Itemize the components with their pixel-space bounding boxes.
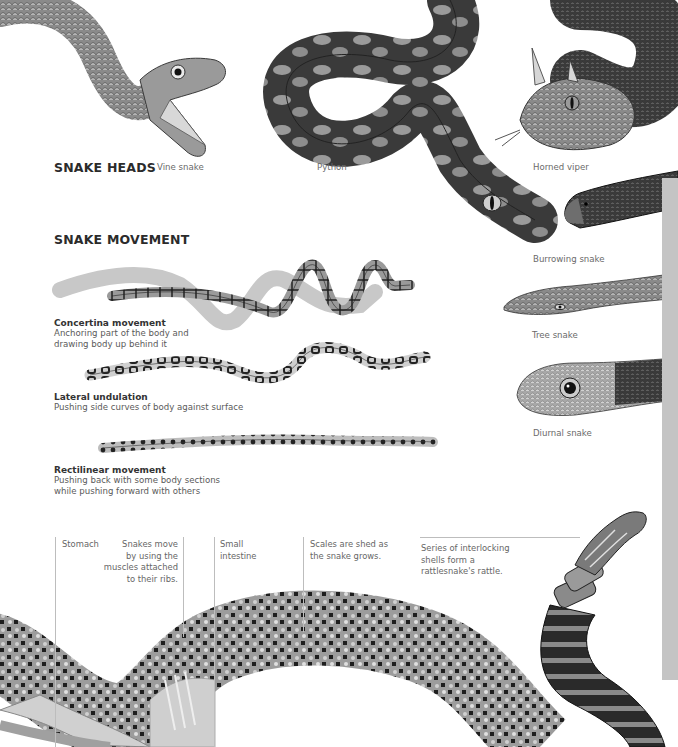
caption-burrowing-snake: Burrowing snake [533,254,605,264]
movement-description: Pushing side curves of body against surf… [54,402,243,413]
movement-title: Lateral undulation [54,392,243,402]
page-edge-tab [662,178,678,680]
movement-title: Concertina movement [54,318,189,328]
movement-lateral-undulation: Lateral undulation Pushing side curves o… [54,392,243,413]
annotation-line: muscles attached [100,562,178,574]
caption-tree-snake: Tree snake [532,330,578,340]
snake-movement-title: SNAKE MOVEMENT [54,232,189,247]
rattlesnake-anatomy-illustration [0,620,560,747]
leader-line-ribs [183,537,184,637]
annotation-line: intestine [220,551,257,563]
annotation-line: rattlesnake's rattle. [421,566,510,578]
movement-concertina: Concertina movement Anchoring part of th… [54,318,189,350]
leader-line-rattle [420,537,580,538]
movement-description: Anchoring part of the body and [54,328,189,339]
burrowing-snake-illustration [560,168,678,240]
annotation-line: Series of interlocking [421,543,510,555]
annotation-ribs: Snakes move by using the muscles attache… [100,539,178,585]
annotation-line: Scales are shed as [310,539,388,551]
movement-rectilinear: Rectilinear movement Pushing back with s… [54,465,220,497]
caption-vine-snake: Vine snake [157,162,204,172]
annotation-line: Snakes move [100,539,178,551]
tree-snake-illustration [502,270,678,322]
annotation-line: to their ribs. [100,574,178,586]
annotation-line: by using the [100,551,178,563]
caption-diurnal-snake: Diurnal snake [533,428,592,438]
rectilinear-illustration [98,430,438,460]
movement-description: drawing body up behind it [54,339,189,350]
vine-snake-illustration [0,0,240,170]
annotation-scales: Scales are shed as the snake grows. [310,539,388,562]
movement-description: Pushing back with some body sections [54,475,220,486]
annotation-line: the snake grows. [310,551,388,563]
leader-line-intestine [214,537,215,747]
diurnal-snake-illustration [515,355,678,420]
horned-viper-illustration [490,0,678,160]
annotation-small-intestine: Small intestine [220,539,257,562]
caption-horned-viper: Horned viper [533,162,589,172]
movement-title: Rectilinear movement [54,465,220,475]
rattle-illustration [515,505,665,747]
annotation-stomach: Stomach [62,539,99,551]
annotation-line: shells form a [421,555,510,567]
annotation-rattle: Series of interlocking shells form a rat… [421,543,510,578]
leader-line-stomach [55,537,56,747]
snake-heads-title: SNAKE HEADS [54,160,156,175]
annotation-line: Small [220,539,257,551]
leader-line-scales [303,537,304,632]
movement-description: while pushing forward with others [54,486,220,497]
caption-python: Python [317,162,347,172]
